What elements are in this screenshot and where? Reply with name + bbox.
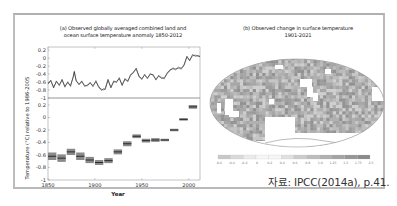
colorbar-segment [218, 155, 231, 159]
annual-anomaly-line [48, 55, 200, 91]
x-axis-label: Year [110, 191, 125, 197]
anomaly-series-1 [48, 55, 200, 91]
map-grid-cells [205, 55, 390, 155]
colorbar-legend: -0.6-0.4-0.200.20.40.60.81.01.251.51.752… [216, 155, 374, 165]
colorbar-segment [294, 155, 307, 159]
colorbar-tick-label: -0.4 [229, 161, 235, 165]
colorbar-tick-label: -0.2 [241, 161, 247, 165]
colorbar-segment [231, 155, 244, 159]
temperature-anomaly-chart: 0.20.200-0.2-0.2-0.4-0.4-0.6-0.6-0.8-0.8… [0, 0, 210, 206]
colorbar-segment [243, 155, 256, 159]
source-citation: 자료: IPCC(2014a), p.41. [268, 174, 389, 189]
y-tick-label: -0.6 [36, 79, 46, 85]
y-tick-label: -0.4 [36, 71, 47, 77]
colorbar-tick-label: 1.75 [355, 161, 362, 165]
y-tick-label: -0.6 [36, 152, 46, 158]
y-tick-label: 0 [43, 55, 46, 61]
y-tick-label: 0.2 [38, 102, 46, 108]
world-temperature-map: -0.6-0.4-0.200.20.40.60.81.01.251.51.752… [205, 55, 390, 170]
colorbar-segment [345, 155, 358, 159]
chart-axes: 0.20.200-0.2-0.2-0.4-0.4-0.6-0.6-0.8-0.8… [36, 47, 200, 188]
panel-b-title-line2: 1901-2021 [228, 32, 368, 39]
y-axis-label: Temperature (°C) relative to 1986-2005 [24, 77, 31, 181]
y-tick-label: -0.2 [36, 127, 46, 133]
colorbar-tick-label: 1.25 [329, 161, 336, 165]
colorbar-tick-label: 0.8 [305, 161, 310, 165]
x-tick-label: 1850 [41, 182, 54, 188]
colorbar-segment [269, 155, 282, 159]
colorbar-tick-label: 2.5 [368, 161, 373, 165]
colorbar-segment [357, 155, 370, 159]
colorbar-tick-label: 0.6 [292, 161, 297, 165]
y-tick-label: -0.4 [36, 139, 47, 145]
y-tick-label: -0.8 [36, 164, 46, 170]
bottom-plot-frame [48, 98, 200, 180]
colorbar-segment [332, 155, 345, 159]
colorbar-tick-label: 0.2 [267, 161, 272, 165]
x-tick-label: 1950 [135, 182, 148, 188]
y-tick-label: -0.2 [36, 63, 46, 69]
colorbar-segment [307, 155, 320, 159]
colorbar-tick-label: 0.4 [280, 161, 285, 165]
panel-b-title-line1: (b) Observed change in surface temperatu… [228, 25, 368, 32]
decadal-bars [48, 105, 197, 165]
y-tick-label: 0 [43, 114, 46, 120]
top-plot-frame [48, 47, 200, 98]
colorbar-tick-label: 1.5 [343, 161, 348, 165]
colorbar-segment [256, 155, 269, 159]
y-tick-label: -1 [41, 95, 46, 101]
y-tick-label: 0.2 [38, 47, 46, 53]
colorbar-tick-label: 1.0 [318, 161, 323, 165]
colorbar-segment [319, 155, 332, 159]
x-tick-label: 1900 [88, 182, 101, 188]
colorbar-segment [281, 155, 294, 159]
colorbar-tick-label: 0 [256, 161, 258, 165]
y-tick-label: -0.8 [36, 87, 46, 93]
x-tick-label: 2000 [182, 182, 195, 188]
panel-b-title: (b) Observed change in surface temperatu… [228, 25, 368, 38]
colorbar-tick-label: -0.6 [216, 161, 222, 165]
